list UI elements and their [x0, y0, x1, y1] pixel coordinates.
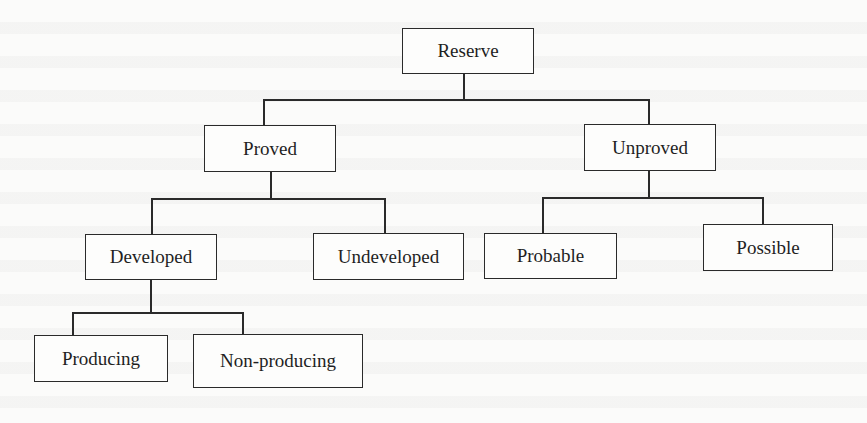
- node-non-producing: Non-producing: [193, 334, 363, 388]
- node-unproved: Unproved: [584, 124, 716, 171]
- node-possible-label: Possible: [736, 237, 799, 259]
- node-unproved-label: Unproved: [612, 137, 688, 159]
- node-undeveloped-label: Undeveloped: [338, 246, 439, 268]
- connector-to-developed: [151, 198, 153, 234]
- node-producing: Producing: [34, 335, 168, 382]
- connector-developed-down: [150, 280, 152, 313]
- node-proved-label: Proved: [243, 138, 297, 160]
- connector-to-proved: [263, 99, 265, 125]
- node-probable: Probable: [484, 233, 617, 279]
- connector-proved-branch: [151, 198, 385, 200]
- connector-to-unproved: [648, 99, 650, 124]
- connector-unproved-down: [648, 171, 650, 198]
- node-proved: Proved: [204, 125, 336, 172]
- connector-to-non-producing: [242, 312, 244, 334]
- connector-to-possible: [762, 197, 764, 224]
- connector-developed-branch: [72, 312, 243, 314]
- node-developed: Developed: [85, 234, 217, 280]
- connector-reserve-down: [463, 74, 465, 100]
- connector-reserve-branch: [263, 99, 649, 101]
- node-probable-label: Probable: [517, 245, 585, 267]
- connector-to-probable: [542, 197, 544, 233]
- connector-unproved-branch: [542, 197, 763, 199]
- node-undeveloped: Undeveloped: [313, 233, 464, 280]
- node-possible: Possible: [703, 224, 833, 271]
- node-developed-label: Developed: [110, 246, 192, 268]
- node-reserve-label: Reserve: [437, 40, 498, 62]
- node-non-producing-label: Non-producing: [220, 350, 336, 372]
- node-producing-label: Producing: [62, 348, 140, 370]
- connector-to-undeveloped: [384, 198, 386, 233]
- connector-to-producing: [72, 312, 74, 335]
- reserve-classification-diagram: Reserve Proved Unproved Developed Undeve…: [0, 0, 867, 423]
- node-reserve: Reserve: [402, 28, 534, 74]
- connector-proved-down: [270, 172, 272, 199]
